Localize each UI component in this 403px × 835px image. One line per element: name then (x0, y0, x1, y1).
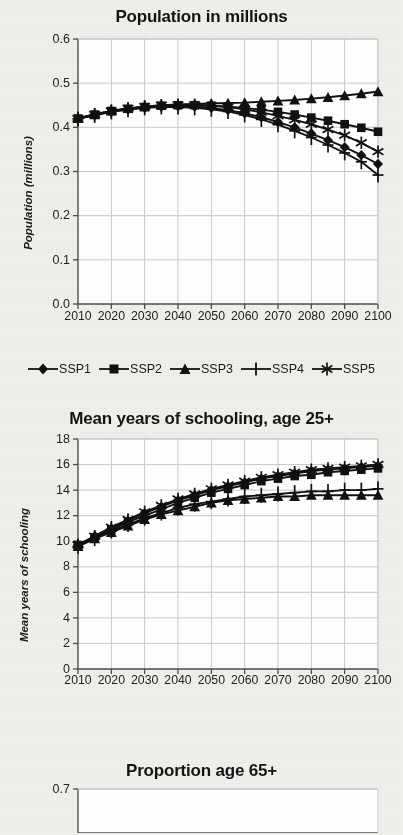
x-tick-label: 2060 (231, 309, 258, 323)
y-tick-label: 4 (63, 611, 70, 625)
x-tick-label: 2060 (231, 673, 258, 687)
x-tick-label: 2050 (198, 673, 225, 687)
plot-area-proportion65: 0.7 (0, 781, 403, 833)
legend: SSP1 SSP2 SSP3 SSP4 SSP5 (0, 359, 403, 379)
chart-title-schooling: Mean years of schooling, age 25+ (0, 408, 403, 429)
x-tick-label: 2080 (298, 309, 325, 323)
y-tick-label: 0.3 (53, 164, 70, 178)
chart-panel-proportion65: Proportion age 65+ 0.7 (0, 760, 403, 835)
x-tick-label: 2010 (64, 309, 91, 323)
x-tick-label: 2030 (131, 309, 158, 323)
legend-item-ssp3[interactable]: SSP3 (170, 361, 233, 377)
legend-item-ssp4[interactable]: SSP4 (241, 361, 304, 377)
y-tick-label: 6 (63, 585, 70, 599)
x-tick-label: 2020 (98, 673, 125, 687)
square-marker (99, 361, 129, 377)
asterisk-marker (312, 361, 342, 377)
y-axis-ticks-proportion65: 0.7 (28, 781, 70, 831)
chart-panel-population: Population in millions Population (milli… (0, 0, 403, 350)
x-tick-label: 2030 (131, 673, 158, 687)
y-tick-label: 0.1 (53, 253, 70, 267)
x-tick-label: 2040 (164, 673, 191, 687)
y-tick-label: 16 (56, 457, 70, 471)
y-tick-label: 0.7 (53, 782, 70, 796)
y-tick-label: 0.2 (53, 208, 70, 222)
y-tick-label: 12 (56, 508, 70, 522)
x-tick-label: 2040 (164, 309, 191, 323)
x-tick-label: 2090 (331, 673, 358, 687)
x-tick-label: 2090 (331, 309, 358, 323)
chart-title-population: Population in millions (0, 0, 403, 27)
x-tick-label: 2070 (264, 673, 291, 687)
legend-item-ssp2[interactable]: SSP2 (99, 361, 162, 377)
chart-title-proportion65: Proportion age 65+ (0, 760, 403, 781)
x-tick-label: 2050 (198, 309, 225, 323)
plot-area-schooling: Mean years of schooling 024681012141618 … (0, 429, 403, 691)
x-tick-label: 2100 (364, 309, 391, 323)
legend-label-ssp3: SSP3 (201, 362, 233, 376)
x-tick-label: 2010 (64, 673, 91, 687)
x-tick-label: 2080 (298, 673, 325, 687)
legend-item-ssp1[interactable]: SSP1 (28, 361, 91, 377)
x-tick-label: 2100 (364, 673, 391, 687)
diamond-marker (28, 361, 58, 377)
y-tick-label: 8 (63, 559, 70, 573)
y-axis-ticks-population: 0.00.10.20.30.40.50.6 (28, 27, 70, 327)
y-tick-label: 2 (63, 636, 70, 650)
legend-item-ssp5[interactable]: SSP5 (312, 361, 375, 377)
plus-marker (241, 361, 271, 377)
y-tick-label: 10 (56, 534, 70, 548)
y-tick-label: 0.6 (53, 32, 70, 46)
legend-label-ssp1: SSP1 (59, 362, 91, 376)
y-tick-label: 0.4 (53, 120, 70, 134)
triangle-marker (170, 361, 200, 377)
chart-panel-schooling: Mean years of schooling, age 25+ Mean ye… (0, 408, 403, 718)
legend-label-ssp2: SSP2 (130, 362, 162, 376)
legend-label-ssp5: SSP5 (343, 362, 375, 376)
x-tick-label: 2070 (264, 309, 291, 323)
y-tick-label: 0.5 (53, 76, 70, 90)
y-axis-ticks-schooling: 024681012141618 (28, 429, 70, 689)
x-tick-label: 2020 (98, 309, 125, 323)
plot-area-population: Population (millions) 0.00.10.20.30.40.5… (0, 27, 403, 327)
y-tick-label: 14 (56, 483, 70, 497)
y-tick-label: 18 (56, 432, 70, 446)
legend-label-ssp4: SSP4 (272, 362, 304, 376)
